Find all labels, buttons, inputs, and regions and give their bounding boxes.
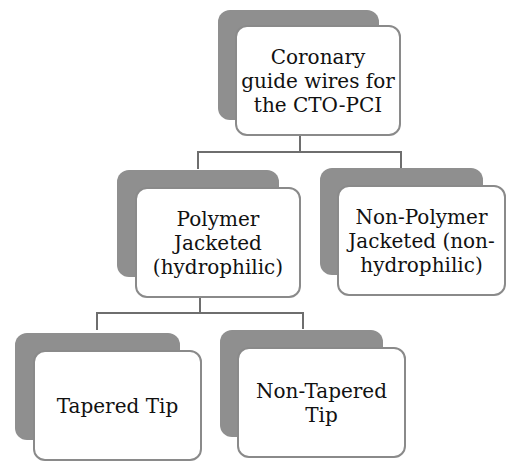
non-polymer-jacketed-label: Non-Polymer Jacketed (non- hydrophilic)	[348, 205, 495, 277]
connector-to-tapered	[96, 312, 98, 330]
root-node: Coronary guide wires for the CTO-PCI	[235, 25, 401, 136]
connector-to-polymer	[197, 151, 199, 169]
non-tapered-tip-node: Non-Tapered Tip	[237, 347, 406, 458]
polymer-jacketed-label: Polymer Jacketed (hydrophilic)	[153, 207, 283, 279]
connector-to-non-polymer	[400, 151, 402, 168]
connector-root-horizontal	[197, 151, 402, 153]
non-polymer-jacketed-node: Non-Polymer Jacketed (non- hydrophilic)	[337, 185, 506, 296]
connector-polymer-horizontal	[96, 312, 304, 314]
tapered-tip-label: Tapered Tip	[57, 394, 178, 418]
connector-to-non-tapered	[302, 312, 304, 329]
non-tapered-tip-label: Non-Tapered Tip	[256, 379, 387, 427]
tapered-tip-node: Tapered Tip	[33, 350, 202, 461]
polymer-jacketed-node: Polymer Jacketed (hydrophilic)	[135, 187, 301, 298]
root-node-label: Coronary guide wires for the CTO-PCI	[241, 45, 395, 117]
